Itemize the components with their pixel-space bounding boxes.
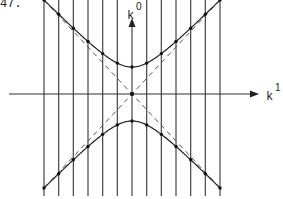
intersection-dot [145, 123, 148, 126]
intersection-dot [130, 119, 133, 122]
intersection-dot [57, 13, 60, 16]
intersection-dot [116, 61, 119, 64]
intersection-dot [42, 186, 45, 189]
intersection-dot [86, 40, 89, 43]
intersection-dot [189, 26, 192, 29]
k1-axis-label: k [266, 91, 273, 103]
intersection-dot [189, 158, 192, 161]
figure-number: 47. [0, 0, 22, 10]
intersection-dot [174, 145, 177, 148]
intersection-dot [204, 172, 207, 175]
intersection-dot [160, 52, 163, 55]
hyperbola-diagram [0, 0, 283, 199]
intersection-dot [101, 133, 104, 136]
intersection-dot [72, 158, 75, 161]
k1-axis-superscript: 1 [275, 83, 281, 93]
intersection-dot [86, 145, 89, 148]
intersection-dot [101, 52, 104, 55]
intersection-dot [204, 13, 207, 16]
intersection-dot [72, 26, 75, 29]
origin-dot [130, 92, 134, 96]
k0-axis-superscript: 0 [136, 2, 142, 12]
intersection-dot [160, 133, 163, 136]
k0-axis-label: k [127, 10, 134, 22]
vertical-grid-lines [44, 0, 220, 196]
intersection-dot [116, 123, 119, 126]
intersection-dot [57, 172, 60, 175]
intersection-dot [174, 40, 177, 43]
intersection-dot [130, 65, 133, 68]
intersection-dot [145, 61, 148, 64]
intersection-dot [218, 186, 221, 189]
